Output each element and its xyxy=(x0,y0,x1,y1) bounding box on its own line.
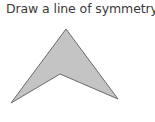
arrowhead-shape xyxy=(11,29,118,103)
drawing-area[interactable] xyxy=(0,0,155,122)
